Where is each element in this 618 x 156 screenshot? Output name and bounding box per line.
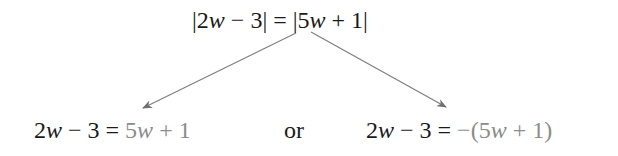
constant: 1 — [351, 7, 363, 33]
operator: − — [62, 117, 88, 143]
close-paren: ) — [544, 117, 552, 143]
highlighted-rhs: −(5w+1) — [457, 117, 552, 143]
operator: − — [394, 117, 420, 143]
coefficient: 5 — [125, 117, 137, 143]
right-branch-arrow — [311, 32, 446, 107]
absolute-value-equation: |2w−3|=|5w+1| — [192, 8, 368, 32]
case-negative-equation: 2w−3=−(5w+1) — [366, 118, 552, 142]
constant: 3 — [88, 117, 100, 143]
operator: + — [153, 117, 179, 143]
operator: − — [225, 7, 251, 33]
variable: w — [491, 117, 507, 143]
equals-sign: = — [100, 117, 126, 143]
coefficient: 5 — [479, 117, 491, 143]
variable: w — [137, 117, 153, 143]
variable: w — [310, 7, 326, 33]
coefficient: 2 — [366, 117, 378, 143]
left-branch-arrow — [143, 33, 296, 108]
highlighted-rhs: 5w+1 — [125, 117, 191, 143]
coefficient: 5 — [298, 7, 310, 33]
abs-bar: | — [363, 7, 368, 33]
coefficient: 2 — [34, 117, 46, 143]
variable: w — [209, 7, 225, 33]
case-positive-equation: 2w−3=5w+1 — [34, 118, 191, 142]
constant: 1 — [532, 117, 544, 143]
or-connector: or — [284, 118, 304, 142]
constant: 3 — [420, 117, 432, 143]
equals-sign: = — [267, 7, 293, 33]
coefficient: 2 — [197, 7, 209, 33]
variable: w — [378, 117, 394, 143]
negation-paren: −( — [457, 117, 479, 143]
constant: 3 — [250, 7, 262, 33]
equals-sign: = — [432, 117, 458, 143]
variable: w — [46, 117, 62, 143]
constant: 1 — [179, 117, 191, 143]
operator: + — [507, 117, 533, 143]
operator: + — [326, 7, 352, 33]
